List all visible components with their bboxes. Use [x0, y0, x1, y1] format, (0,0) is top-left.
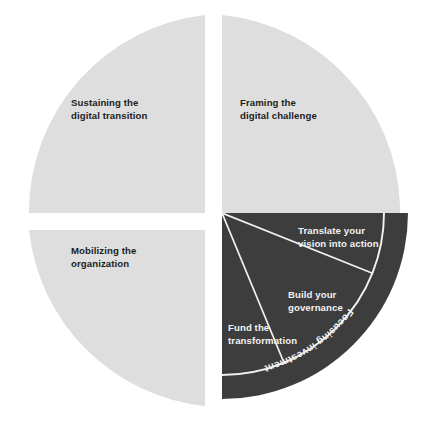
quadrant-sustaining-label-line1: Sustaining the [71, 97, 139, 108]
framework-diagram: Sustaining the digital transition Framin… [0, 0, 430, 436]
wedge-translate-vision-label-line2: vision into action [298, 238, 379, 249]
wedge-build-governance-label-line1: Build your [288, 289, 337, 300]
quadrant-framing-label-line2: digital challenge [240, 110, 317, 121]
quadrant-mobilizing: Mobilizing the organization [29, 230, 205, 406]
quadrant-mobilizing-shape [29, 230, 205, 406]
quadrant-sustaining-label-line2: digital transition [71, 110, 147, 121]
wedge-fund-transformation-label-line2: transformation [228, 335, 297, 346]
quadrant-mobilizing-label-line1: Mobilizing the [71, 245, 136, 256]
wedge-translate-vision-label-line1: Translate your [298, 225, 365, 236]
quadrant-framing: Framing the digital challenge [222, 15, 400, 213]
wedge-build-governance-label-line2: governance [288, 302, 343, 313]
quartered-circle-svg: Sustaining the digital transition Framin… [0, 0, 430, 436]
quadrant-sustaining: Sustaining the digital transition [29, 15, 205, 213]
wedge-fund-transformation-label-line1: Fund the [228, 322, 269, 333]
quadrant-mobilizing-label-line2: organization [71, 258, 129, 269]
quadrant-focusing: Translate your vision into action Build … [222, 213, 408, 399]
quadrant-framing-label-line1: Framing the [240, 97, 296, 108]
